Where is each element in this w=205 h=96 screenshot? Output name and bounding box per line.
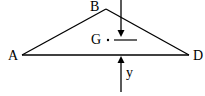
- vertex-label-a: A: [8, 49, 18, 63]
- centroid-dot: [107, 39, 109, 41]
- vertex-label-d: D: [193, 49, 203, 63]
- diagram-canvas: [0, 0, 205, 96]
- force-label-y: y: [126, 66, 133, 80]
- triangle-force-diagram: A B D G y: [0, 0, 205, 96]
- edge-BD: [106, 9, 189, 55]
- vertex-label-b: B: [90, 0, 99, 14]
- centroid-label-g: G: [91, 33, 101, 47]
- upward-force-arrow-icon: [118, 56, 125, 92]
